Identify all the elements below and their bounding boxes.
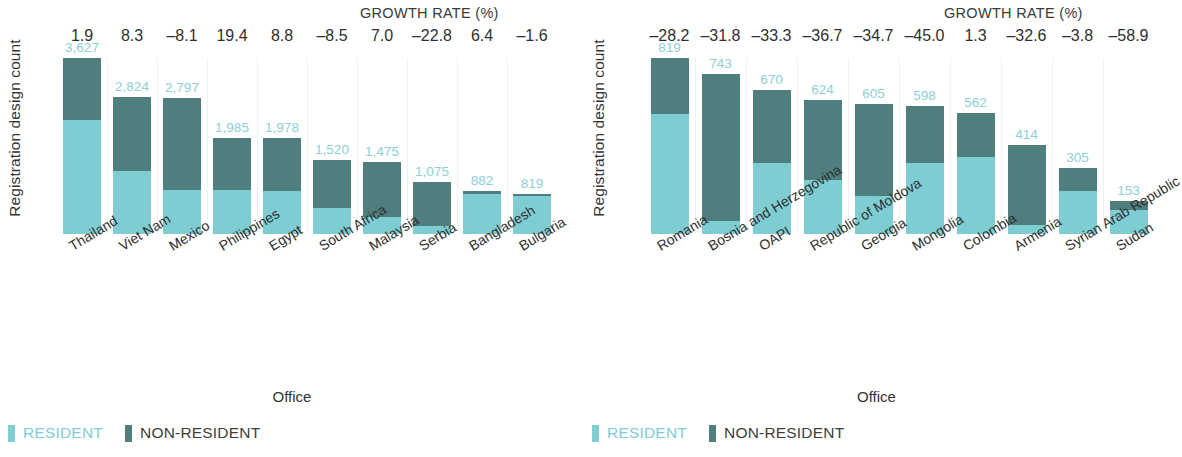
- chart-panel-right: Registration design count GROWTH RATE (%…: [584, 0, 1169, 457]
- growth-rate-value: –22.8: [407, 27, 457, 45]
- growth-rate-value: –32.6: [1001, 27, 1052, 45]
- bar-segment-non-resident[interactable]: [313, 160, 351, 208]
- x-axis-title-right: Office: [584, 388, 1169, 405]
- bar-segment-non-resident[interactable]: [957, 113, 995, 156]
- bar-segment-non-resident[interactable]: [906, 106, 944, 164]
- legend-swatch-non-resident-right: [709, 425, 716, 442]
- stacked-bar[interactable]: [702, 74, 740, 234]
- bar-value-label: 1,520: [315, 142, 349, 157]
- bar-group[interactable]: 624: [797, 58, 848, 234]
- y-axis-title-right-text: Registration design count: [590, 39, 608, 216]
- growth-rate-value: 19.4: [207, 27, 257, 45]
- growth-rate-row-left: 1.98.3–8.119.48.8–8.57.0–22.86.4–1.6: [57, 27, 557, 45]
- bar-value-label: 624: [811, 82, 834, 97]
- x-axis-title-left: Office: [0, 388, 584, 405]
- growth-rate-value: –58.9: [1103, 27, 1154, 45]
- bar-value-label: 1,985: [215, 120, 249, 135]
- bar-segment-non-resident[interactable]: [855, 104, 893, 196]
- growth-rate-value: –33.3: [746, 27, 797, 45]
- bar-segment-non-resident[interactable]: [113, 97, 151, 171]
- bar-group[interactable]: 1,985: [207, 58, 257, 234]
- bar-value-label: 305: [1066, 150, 1089, 165]
- bar-group[interactable]: 1,075: [407, 58, 457, 234]
- growth-rate-value: 8.8: [257, 27, 307, 45]
- y-axis-title-right: Registration design count: [586, 12, 612, 244]
- stacked-bar[interactable]: [113, 97, 151, 234]
- x-tick-labels-right: RomaniaBosnia and HerzegovinaOAPIRepubli…: [644, 240, 1154, 360]
- legend-item-non-resident-right[interactable]: NON-RESIDENT: [709, 424, 844, 442]
- bar-group[interactable]: 3,627: [57, 58, 107, 234]
- legend-label-resident-left: RESIDENT: [23, 424, 103, 442]
- bar-value-label: 1,475: [365, 144, 399, 159]
- growth-rate-value: –45.0: [899, 27, 950, 45]
- bar-value-label: 605: [862, 86, 885, 101]
- bar-value-label: 882: [471, 173, 494, 188]
- bar-group[interactable]: 2,824: [107, 58, 157, 234]
- chart-panel-left: Registration design count GROWTH RATE (%…: [0, 0, 584, 457]
- growth-rate-value: 7.0: [357, 27, 407, 45]
- growth-rate-value: –8.1: [157, 27, 207, 45]
- legend-left: RESIDENT NON-RESIDENT: [8, 424, 282, 442]
- bar-segment-resident[interactable]: [63, 120, 101, 234]
- bar-group[interactable]: 305: [1052, 58, 1103, 234]
- growth-rate-value: –8.5: [307, 27, 357, 45]
- plot-area-left: 3,6272,8242,7971,9851,9781,5201,4751,075…: [57, 58, 557, 234]
- legend-label-non-resident-left: NON-RESIDENT: [140, 424, 260, 442]
- bar-value-label: 1,075: [415, 164, 449, 179]
- bar-segment-resident[interactable]: [651, 114, 689, 234]
- stacked-bar[interactable]: [163, 98, 201, 234]
- legend-item-resident-left[interactable]: RESIDENT: [8, 424, 103, 442]
- bar-value-label: 3,627: [65, 40, 99, 55]
- legend-swatch-non-resident-left: [125, 425, 132, 442]
- stacked-bar[interactable]: [651, 58, 689, 234]
- bar-group[interactable]: 882: [457, 58, 507, 234]
- bar-value-label: 670: [760, 72, 783, 87]
- bar-group[interactable]: 819: [644, 58, 695, 234]
- bar-segment-non-resident[interactable]: [213, 138, 251, 191]
- growth-rate-value: –34.7: [848, 27, 899, 45]
- growth-rate-value: 1.3: [950, 27, 1001, 45]
- bar-group[interactable]: 1,520: [307, 58, 357, 234]
- bar-group[interactable]: 2,797: [157, 58, 207, 234]
- bar-segment-non-resident[interactable]: [702, 74, 740, 221]
- bar-value-label: 819: [658, 40, 681, 55]
- bar-value-label: 414: [1015, 127, 1038, 142]
- growth-rate-value: –31.8: [695, 27, 746, 45]
- legend-item-resident-right[interactable]: RESIDENT: [592, 424, 687, 442]
- bar-value-label: 2,797: [165, 80, 199, 95]
- stacked-bar[interactable]: [63, 58, 101, 234]
- growth-rate-value: –36.7: [797, 27, 848, 45]
- bar-segment-non-resident[interactable]: [263, 138, 301, 191]
- bar-value-label: 819: [521, 176, 544, 191]
- bar-segment-non-resident[interactable]: [753, 90, 791, 163]
- legend-label-non-resident-right: NON-RESIDENT: [724, 424, 844, 442]
- growth-rate-title-left: GROWTH RATE (%): [360, 5, 499, 21]
- bar-segment-non-resident[interactable]: [1059, 168, 1097, 191]
- bar-value-label: 1,978: [265, 120, 299, 135]
- bar-segment-non-resident[interactable]: [163, 98, 201, 190]
- plot-area-right: 819743670624605598562414305153: [644, 58, 1154, 234]
- bar-group[interactable]: 414: [1001, 58, 1052, 234]
- growth-rate-title-right: GROWTH RATE (%): [944, 5, 1083, 21]
- bar-group[interactable]: 743: [695, 58, 746, 234]
- legend-swatch-resident-left: [8, 425, 15, 442]
- legend-item-non-resident-left[interactable]: NON-RESIDENT: [125, 424, 260, 442]
- y-axis-title-left: Registration design count: [2, 12, 28, 244]
- stacked-bar[interactable]: [213, 138, 251, 234]
- x-tick-labels-left: ThailandViet NamMexicoPhilippinesEgyptSo…: [57, 240, 557, 360]
- bar-value-label: 2,824: [115, 79, 149, 94]
- growth-rate-value: 8.3: [107, 27, 157, 45]
- bar-segment-non-resident[interactable]: [63, 58, 101, 120]
- growth-rate-value: –3.8: [1052, 27, 1103, 45]
- bar-segment-non-resident[interactable]: [651, 58, 689, 114]
- legend-label-resident-right: RESIDENT: [607, 424, 687, 442]
- growth-rate-value: –1.6: [507, 27, 557, 45]
- bar-value-label: 598: [913, 88, 936, 103]
- bar-group[interactable]: 598: [899, 58, 950, 234]
- bar-group[interactable]: 1,978: [257, 58, 307, 234]
- stacked-bar[interactable]: [957, 113, 995, 234]
- stacked-bar[interactable]: [906, 106, 944, 235]
- y-axis-title-left-text: Registration design count: [6, 39, 24, 216]
- bar-group[interactable]: 562: [950, 58, 1001, 234]
